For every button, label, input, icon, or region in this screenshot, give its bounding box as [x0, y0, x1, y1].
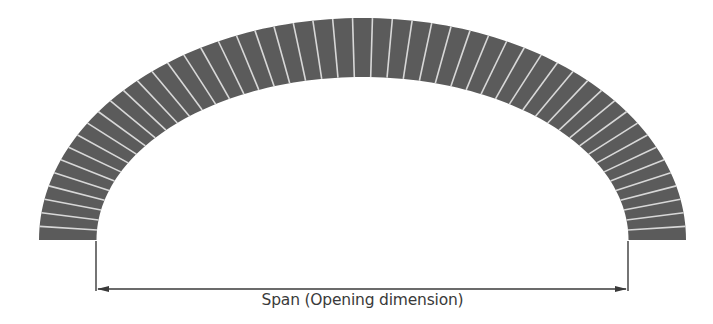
span-dimension	[96, 241, 628, 292]
arch-body	[39, 18, 686, 240]
arch-diagram	[0, 0, 713, 324]
span-label: Span (Opening dimension)	[0, 291, 713, 309]
brick-arch	[39, 18, 686, 240]
